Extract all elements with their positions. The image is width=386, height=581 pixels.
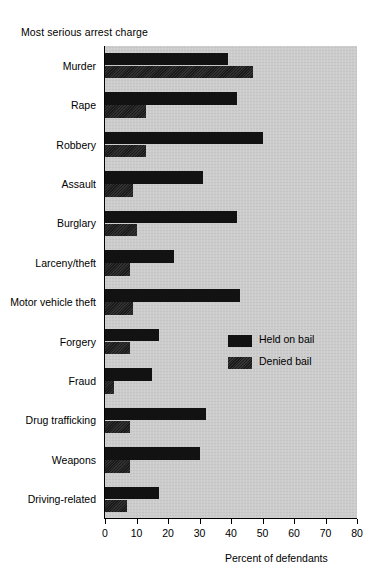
x-tick-label-80: 80 [351, 527, 363, 539]
x-tick-label-20: 20 [162, 527, 174, 539]
category-label-robbery: Robbery [56, 139, 96, 151]
x-tick-label-40: 40 [225, 527, 237, 539]
bar-rape-held-on-bail [105, 92, 237, 105]
x-tick-label-50: 50 [257, 527, 269, 539]
chart-legend: Held on bail Denied bail [228, 332, 348, 376]
x-tick-label-10: 10 [131, 527, 143, 539]
bar-larceny-theft-held-on-bail [105, 250, 174, 263]
x-tick-label-70: 70 [320, 527, 332, 539]
legend-label-denied: Denied bail [259, 355, 312, 367]
category-label-driving-related: Driving-related [28, 493, 96, 505]
category-label-assault: Assault [62, 178, 96, 190]
bar-robbery-held-on-bail [105, 132, 263, 145]
x-tick-0 [105, 519, 106, 524]
category-label-motor-vehicle-theft: Motor vehicle theft [10, 296, 96, 308]
bar-drug-trafficking-held-on-bail [105, 408, 206, 421]
y-axis-line [104, 46, 105, 519]
x-tick-20 [168, 519, 169, 524]
legend-swatch-held-icon [228, 335, 252, 347]
bar-forgery-denied-bail [105, 342, 130, 355]
x-tick-40 [231, 519, 232, 524]
bar-motor-vehicle-theft-held-on-bail [105, 289, 240, 302]
legend-swatch-denied-icon [228, 357, 252, 369]
bar-assault-denied-bail [105, 184, 133, 197]
bar-weapons-held-on-bail [105, 447, 200, 460]
x-tick-60 [294, 519, 295, 524]
bar-drug-trafficking-denied-bail [105, 421, 130, 434]
bar-chart: Most serious arrest charge MurderRapeRob… [0, 0, 386, 581]
bar-motor-vehicle-theft-denied-bail [105, 302, 133, 315]
bar-larceny-theft-denied-bail [105, 263, 130, 276]
legend-item-held: Held on bail [228, 332, 348, 354]
category-axis-labels: MurderRapeRobberyAssaultBurglaryLarceny/… [0, 0, 104, 581]
x-tick-50 [263, 519, 264, 524]
bar-fraud-held-on-bail [105, 368, 152, 381]
bar-murder-denied-bail [105, 66, 253, 79]
bar-weapons-denied-bail [105, 460, 130, 473]
x-tick-70 [326, 519, 327, 524]
x-axis-title: Percent of defendants [225, 552, 328, 564]
x-tick-80 [357, 519, 358, 524]
category-label-larceny-theft: Larceny/theft [35, 257, 96, 269]
bar-assault-held-on-bail [105, 171, 203, 184]
x-tick-label-60: 60 [288, 527, 300, 539]
bar-burglary-denied-bail [105, 224, 137, 237]
legend-item-denied: Denied bail [228, 354, 348, 376]
category-label-rape: Rape [71, 99, 96, 111]
bar-driving-related-denied-bail [105, 500, 127, 513]
category-label-drug-trafficking: Drug trafficking [26, 414, 96, 426]
category-label-forgery: Forgery [60, 336, 96, 348]
category-label-weapons: Weapons [52, 454, 96, 466]
legend-label-held: Held on bail [259, 333, 314, 345]
x-tick-10 [137, 519, 138, 524]
category-label-burglary: Burglary [57, 217, 96, 229]
bar-robbery-denied-bail [105, 145, 146, 158]
bar-fraud-denied-bail [105, 381, 114, 394]
category-label-murder: Murder [63, 60, 96, 72]
bar-rape-denied-bail [105, 105, 146, 118]
category-label-fraud: Fraud [69, 375, 96, 387]
bar-forgery-held-on-bail [105, 329, 159, 342]
bar-burglary-held-on-bail [105, 211, 237, 224]
x-tick-30 [200, 519, 201, 524]
bar-driving-related-held-on-bail [105, 487, 159, 500]
x-tick-label-0: 0 [102, 527, 108, 539]
x-tick-label-30: 30 [194, 527, 206, 539]
plot-area [105, 46, 357, 519]
bar-murder-held-on-bail [105, 53, 228, 66]
